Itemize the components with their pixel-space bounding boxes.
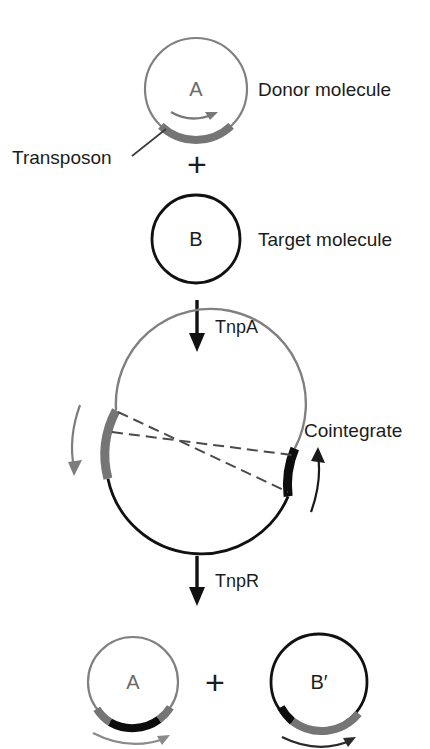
down-arrow-icon-tnpr <box>189 556 205 606</box>
transposition-diagram: A Transposon Donor molecule + B Target m… <box>0 0 430 749</box>
plus-operator-products: + <box>205 663 225 701</box>
product-a-transposon-gray-right <box>159 707 170 719</box>
product-b-transposon-black <box>281 707 293 721</box>
product-a-direction-arrow-icon <box>93 733 170 745</box>
product-a-transposon-gray-left <box>97 709 110 722</box>
cointegrate-crossover-lines <box>112 412 292 492</box>
cointegrate-transposon-copy-1 <box>105 410 116 478</box>
transposon-label: Transposon <box>12 147 112 168</box>
donor-circle-letter: A <box>189 78 203 100</box>
donor-direction-arrow-icon <box>171 112 218 120</box>
cointegrate-label: Cointegrate <box>304 420 402 441</box>
cointegrate-group: Cointegrate <box>68 309 402 554</box>
product-b-transposon-gray <box>293 714 359 732</box>
product-b-direction-arrow-icon <box>282 737 356 747</box>
cointegrate-donor-arc <box>116 309 306 449</box>
product-a-transposon-black <box>110 720 159 729</box>
crossover-line-1 <box>118 412 288 492</box>
plus-operator-top: + <box>187 145 207 183</box>
transposon-leader-line <box>132 129 166 156</box>
product-b-letter: B′ <box>310 671 327 693</box>
target-circle-letter: B <box>189 228 202 250</box>
clockwise-arrow-icon <box>311 447 325 512</box>
donor-molecule-label: Donor molecule <box>258 79 391 100</box>
step-tnpa-group: TnpA <box>189 300 258 352</box>
step-tnpr-group: TnpR <box>189 556 259 606</box>
product-b-group: B′ <box>271 634 367 747</box>
product-a-letter: A <box>126 671 140 693</box>
cointegrate-target-arc <box>108 479 288 554</box>
counterclockwise-arrow-icon <box>68 405 82 476</box>
product-a-group: A <box>88 637 178 745</box>
enzyme-label-tnpa: TnpA <box>215 317 258 337</box>
enzyme-label-tnpr: TnpR <box>215 571 259 591</box>
donor-transposon-segment <box>161 126 231 140</box>
target-molecule-group: B Target molecule <box>152 195 392 283</box>
down-arrow-icon-tnpa <box>189 300 205 352</box>
target-molecule-label: Target molecule <box>258 229 392 250</box>
